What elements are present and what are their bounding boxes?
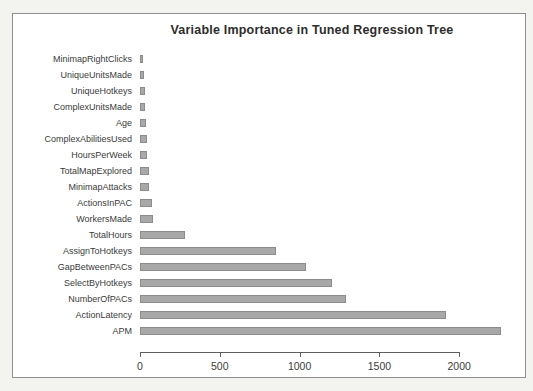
category-label: TotalMapExplored <box>13 166 132 176</box>
bar <box>140 151 147 159</box>
bar <box>140 183 149 191</box>
x-axis-tick-label: 1500 <box>349 360 409 372</box>
bar <box>140 119 146 127</box>
x-axis-tick-label: 0 <box>110 360 170 372</box>
bar <box>140 215 153 223</box>
bar <box>140 167 149 175</box>
category-label: GapBetweenPACs <box>13 262 132 272</box>
category-label: WorkersMade <box>13 214 132 224</box>
bar <box>140 231 185 239</box>
chart-frame: Variable Importance in Tuned Regression … <box>12 13 526 378</box>
bar <box>140 247 276 255</box>
bar <box>140 199 152 207</box>
bar <box>140 71 144 79</box>
bar <box>140 55 143 63</box>
x-axis-tick <box>300 352 301 357</box>
x-axis-tick-label: 500 <box>190 360 250 372</box>
category-label: ComplexUnitsMade <box>13 102 132 112</box>
bar <box>140 103 145 111</box>
category-label: ComplexAbilitiesUsed <box>13 134 132 144</box>
bar <box>140 279 332 287</box>
category-label: ActionLatency <box>13 310 132 320</box>
category-label: Age <box>13 118 132 128</box>
x-axis-tick-label: 1000 <box>270 360 330 372</box>
x-axis-tick <box>220 352 221 357</box>
bar <box>140 311 446 319</box>
chart-title: Variable Importance in Tuned Regression … <box>99 23 525 37</box>
bar <box>140 263 306 271</box>
bar <box>140 295 346 303</box>
category-label: MinimapRightClicks <box>13 54 132 64</box>
category-label: HoursPerWeek <box>13 150 132 160</box>
category-label: SelectByHotkeys <box>13 278 132 288</box>
category-label: TotalHours <box>13 230 132 240</box>
category-label: AssignToHotkeys <box>13 246 132 256</box>
category-label: UniqueUnitsMade <box>13 70 132 80</box>
x-axis-tick <box>459 352 460 357</box>
x-axis-tick <box>379 352 380 357</box>
category-label: UniqueHotkeys <box>13 86 132 96</box>
bar <box>140 135 147 143</box>
bar <box>140 327 501 335</box>
x-axis-tick-label: 2000 <box>429 360 489 372</box>
category-label: APM <box>13 326 132 336</box>
category-label: MinimapAttacks <box>13 182 132 192</box>
x-axis-tick <box>140 352 141 357</box>
category-label: NumberOfPACs <box>13 294 132 304</box>
category-label: ActionsInPAC <box>13 198 132 208</box>
bar <box>140 87 145 95</box>
